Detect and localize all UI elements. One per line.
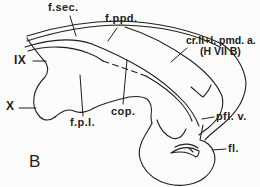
leader-pfl-v (202, 117, 214, 119)
label-fl: fl. (228, 143, 239, 154)
label-cop: cop. (111, 106, 135, 117)
label-cr-pmd-line2: (H VII B) (200, 46, 241, 57)
label-f-ppd: f.ppd. (105, 13, 137, 24)
leader-f-ppd (108, 28, 117, 41)
copula-line-right (146, 76, 192, 121)
leader-fl (212, 149, 226, 150)
label-pfl-v: pfl. v. (216, 111, 247, 122)
copula-line-dashed (103, 61, 146, 76)
label-f-p-l: f.p.l. (70, 117, 95, 128)
leader-f-sec (70, 16, 76, 36)
flocculus-outline (139, 123, 215, 185)
label-lobule-x: X (6, 100, 15, 112)
label-cr-pmd-line1: cr.II+l. pmd. a. (186, 35, 256, 46)
fissure-tip-mark (191, 85, 211, 97)
leader-f-p-l (80, 75, 83, 116)
flocculus-fold-sliver (171, 148, 199, 157)
leader-cr-pmd (171, 48, 187, 62)
figure-panel: f.sec. f.ppd. IX X f.p.l. cop. cr.II+l. … (0, 0, 260, 187)
label-lobule-ix: IX (14, 54, 26, 66)
panel-letter: B (29, 153, 40, 170)
label-f-sec: f.sec. (48, 2, 79, 13)
copula-line-left (28, 47, 103, 61)
lobe-notch-curve (157, 120, 186, 139)
